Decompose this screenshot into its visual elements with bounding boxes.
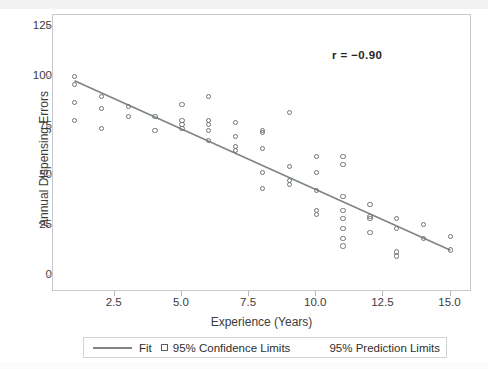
x-tick-mark	[248, 291, 249, 296]
data-point	[340, 154, 345, 159]
data-point	[179, 102, 184, 107]
data-point	[340, 216, 345, 221]
legend-label-fit: Fit	[139, 342, 152, 354]
x-tick-mark	[114, 291, 115, 296]
x-tick-label: 2.5	[91, 297, 137, 309]
data-point	[340, 208, 345, 213]
data-point	[314, 170, 319, 175]
data-point	[314, 154, 319, 159]
chart-figure: 0255075100125 2.55.07.510.012.515.0 Annu…	[0, 0, 488, 369]
data-point	[179, 126, 184, 131]
data-point	[367, 230, 372, 235]
data-point	[152, 128, 157, 133]
plot-area	[52, 14, 471, 291]
data-point	[448, 234, 453, 239]
data-point	[340, 236, 345, 241]
data-point	[152, 114, 157, 119]
y-axis-label: Annual Dispensing Errors	[37, 29, 51, 289]
data-point	[314, 212, 319, 217]
legend-label-prediction: 95% Prediction Limits	[329, 342, 440, 354]
x-tick-mark	[181, 291, 182, 296]
data-point	[340, 226, 345, 231]
x-tick-mark	[450, 291, 451, 296]
line-swatch-icon	[93, 347, 132, 349]
legend-item-prediction[interactable]: 95% Prediction Limits	[329, 342, 440, 354]
fit-line-svg	[53, 15, 471, 291]
data-point	[287, 182, 292, 187]
data-point	[340, 162, 345, 167]
x-tick-label: 15.0	[427, 297, 473, 309]
data-point	[367, 202, 372, 207]
data-point	[367, 216, 372, 221]
legend-item-fit[interactable]: Fit	[90, 342, 152, 354]
x-tick-label: 12.5	[359, 297, 405, 309]
open-square-swatch-icon	[161, 344, 168, 351]
data-point	[340, 243, 345, 248]
legend-label-confidence: 95% Confidence Limits	[173, 342, 291, 354]
chart-legend: Fit 95% Confidence Limits 95% Prediction…	[83, 337, 447, 358]
x-tick-label: 5.0	[158, 297, 204, 309]
x-tick-label: 10.0	[292, 297, 338, 309]
x-tick-label: 7.5	[225, 297, 271, 309]
legend-item-confidence[interactable]: 95% Confidence Limits	[161, 342, 291, 354]
data-point	[448, 247, 453, 252]
x-tick-mark	[315, 291, 316, 296]
x-tick-mark	[382, 291, 383, 296]
data-point	[314, 188, 319, 193]
correlation-annotation: r = −0.90	[332, 49, 382, 61]
data-point	[340, 194, 345, 199]
x-axis-label: Experience (Years)	[52, 315, 471, 329]
